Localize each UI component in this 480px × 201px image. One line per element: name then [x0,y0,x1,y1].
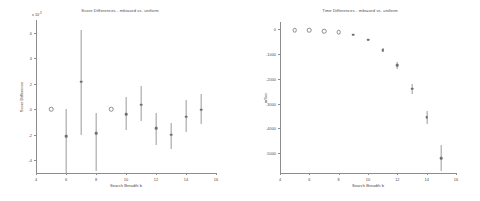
data-point-marker [65,135,68,138]
x-axis-tick [368,173,369,175]
x-axis-title: Search Breadth b [110,183,142,188]
x-axis-tick-label: 4 [279,177,281,182]
y-axis-tick [278,79,280,80]
data-point-marker [95,132,98,135]
data-point-marker [425,116,428,119]
x-axis-tick-label: 8 [338,177,340,182]
y-axis-tick-label: 0 [2,107,32,112]
x-axis-tick [397,173,398,175]
y-axis-tick-label: -2000 [246,76,276,81]
y-axis-tick-label: 2 [2,81,32,86]
y-axis-tick-label: 6 [2,30,32,35]
data-point-marker [170,133,173,136]
error-bar [66,109,67,174]
data-point-marker [352,33,355,36]
plot-area-left: -4-2024646810121416Search Breadth bScore… [36,20,216,173]
data-point-marker [336,30,341,35]
x-axis-tick-label: 14 [424,177,428,182]
chart-title-right: Time Differences - mbiased vs. uniform [240,8,480,13]
data-point-marker [307,28,312,33]
x-axis-tick-label: 12 [395,177,399,182]
data-point-marker [80,81,83,84]
data-point-marker [49,107,54,112]
data-point-marker [200,109,203,112]
y-axis-exponent-label-left: x 10-3 [32,11,42,17]
y-axis-title: mSec [263,92,268,102]
data-point-marker [367,39,370,42]
x-axis-tick-label: 10 [124,177,128,182]
x-axis-tick [126,173,127,175]
x-axis-title: Search Breadth b [352,183,384,188]
data-point-marker [155,127,158,130]
x-axis-tick [216,173,217,175]
y-exponent-power: -3 [39,11,42,15]
y-axis-tick-label: -4 [2,158,32,163]
data-point-marker [396,64,399,67]
y-axis-tick-label: 0 [246,27,276,32]
x-axis-tick [280,173,281,175]
y-axis-title: Score Difference [19,81,24,111]
y-axis-tick [278,29,280,30]
data-point-marker [140,103,143,106]
chart-panel-time-differences: Time Differences - mbiased vs. uniform 0… [240,0,480,201]
chart-panel-score-differences: Score Differences - mbiased vs. uniform … [0,0,240,201]
data-point-marker [185,116,188,119]
data-point-marker [322,29,327,34]
x-axis-tick [36,173,37,175]
x-axis-tick-label: 14 [184,177,188,182]
x-axis-tick-label: 6 [65,177,67,182]
x-axis-tick [339,173,340,175]
y-axis-line [280,22,281,173]
y-axis-tick-label: -1000 [246,52,276,57]
x-axis-tick-label: 6 [308,177,310,182]
data-point-marker [109,107,114,112]
y-axis-tick [34,58,36,59]
x-axis-tick [309,173,310,175]
x-axis-tick [96,173,97,175]
figure-canvas: Score Differences - mbiased vs. uniform … [0,0,480,201]
data-point-marker [381,49,384,52]
data-point-marker [292,28,297,33]
y-axis-tick [34,135,36,136]
data-point-marker [440,157,443,160]
y-axis-tick [34,84,36,85]
x-axis-tick-label: 16 [214,177,218,182]
y-axis-tick [278,153,280,154]
y-axis-tick-label: -3000 [246,101,276,106]
y-axis-tick-label: -4000 [246,126,276,131]
y-axis-tick-label: -2 [2,132,32,137]
x-axis-tick [456,173,457,175]
x-axis-tick-label: 10 [366,177,370,182]
error-bar [96,113,97,171]
x-axis-tick-label: 12 [154,177,158,182]
y-axis-tick [34,160,36,161]
plot-area-right: 0-1000-2000-3000-4000-500046810121416Sea… [280,22,456,173]
x-axis-tick [156,173,157,175]
x-axis-tick [186,173,187,175]
y-axis-tick [34,109,36,110]
data-point-marker [411,88,414,91]
y-axis-tick [278,54,280,55]
x-axis-tick-label: 4 [35,177,37,182]
x-axis-tick [427,173,428,175]
data-point-marker [125,113,128,116]
y-axis-tick-label: -5000 [246,151,276,156]
x-axis-tick-label: 8 [95,177,97,182]
y-axis-tick [278,104,280,105]
y-axis-tick [278,128,280,129]
y-axis-tick [34,33,36,34]
y-axis-tick-label: 4 [2,56,32,61]
y-axis-line [36,20,37,173]
x-axis-tick-label: 16 [454,177,458,182]
